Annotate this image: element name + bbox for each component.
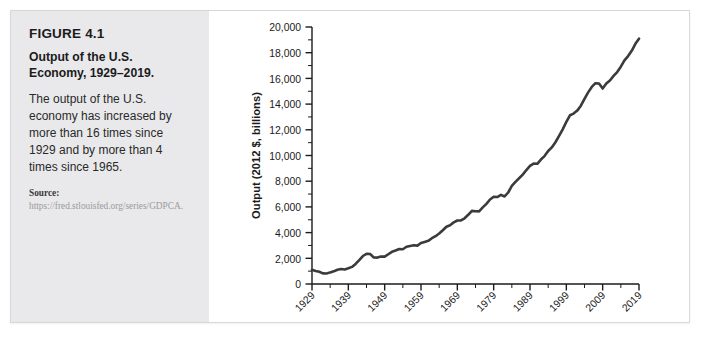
data-series-real-gdp — [312, 39, 639, 274]
y-tick-label: 8,000 — [275, 176, 301, 187]
y-tick-label: 2,000 — [275, 254, 301, 265]
figure-container: FIGURE 4.1 Output of the U.S. Economy, 1… — [10, 10, 690, 323]
figure-description: The output of the U.S. economy has incre… — [29, 91, 193, 176]
line-chart: 02,0004,0006,0008,00010,00012,00014,0001… — [209, 11, 689, 322]
figure-source: Source: https://fred.stlouisfed.org/seri… — [29, 187, 193, 213]
y-axis: 02,0004,0006,0008,00010,00012,00014,0001… — [269, 22, 312, 290]
x-tick-label: 1969 — [438, 289, 462, 313]
source-url: https://fred.stlouisfed.org/series/GDPCA… — [29, 201, 183, 211]
figure-number: FIGURE 4.1 — [29, 26, 193, 42]
y-tick-label: 16,000 — [269, 74, 301, 85]
source-label: Source: — [29, 188, 59, 198]
figure-title: Output of the U.S. Economy, 1929–2019. — [29, 49, 193, 81]
figure-caption-panel: FIGURE 4.1 Output of the U.S. Economy, 1… — [11, 11, 209, 322]
x-tick-label: 1939 — [329, 289, 353, 313]
x-tick-label: 1949 — [365, 289, 389, 313]
y-tick-label: 12,000 — [269, 125, 301, 136]
x-axis: 1929193919491959196919791989199920092019 — [293, 284, 644, 314]
y-tick-label: 14,000 — [269, 99, 301, 110]
x-tick-label: 1979 — [474, 289, 498, 313]
y-axis-title: Output (2012 $, billions) — [250, 92, 262, 219]
y-tick-label: 20,000 — [269, 22, 301, 33]
y-tick-label: 0 — [295, 279, 301, 290]
y-tick-label: 4,000 — [275, 228, 301, 239]
x-tick-label: 1929 — [293, 289, 317, 313]
chart-panel: 02,0004,0006,0008,00010,00012,00014,0001… — [209, 11, 689, 322]
x-tick-label: 1959 — [402, 289, 426, 313]
y-tick-label: 10,000 — [269, 151, 301, 162]
x-tick-label: 1989 — [511, 289, 535, 313]
figure-page: FIGURE 4.1 Output of the U.S. Economy, 1… — [0, 0, 702, 348]
x-tick-label: 1999 — [547, 289, 571, 313]
x-tick-label: 2019 — [620, 289, 644, 313]
y-tick-label: 18,000 — [269, 48, 301, 59]
x-tick-label: 2009 — [583, 289, 607, 313]
y-tick-label: 6,000 — [275, 202, 301, 213]
series-line — [312, 39, 639, 274]
